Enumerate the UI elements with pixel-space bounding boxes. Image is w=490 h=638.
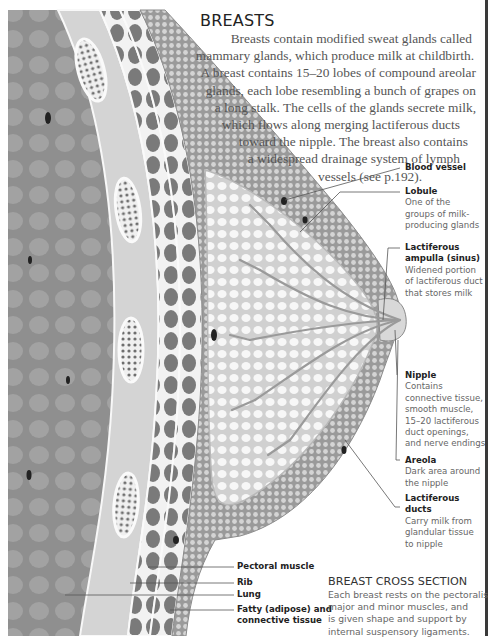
label-nipple: Nipple Contains connective tissue, smoot… <box>405 370 485 450</box>
label-fatty-tissue: Fatty (adipose) and connective tissue <box>237 604 332 627</box>
label-lung: Lung <box>237 589 261 600</box>
page-title: BREASTS <box>190 12 480 30</box>
caption-text: Each breast rests on the pectoralis majo… <box>328 589 488 638</box>
caption-block: BREAST CROSS SECTION Each breast rests o… <box>328 575 488 638</box>
label-blood-vessel: Blood vessel <box>405 162 466 173</box>
label-lobule: Lobule One of the groups of milk- produc… <box>405 186 479 232</box>
label-pectoral-muscle: Pectoral muscle <box>237 561 314 572</box>
intro-block: BREASTS Breasts contain modified sweat g… <box>190 12 480 185</box>
label-lactiferous-ampulla: Lactiferous ampulla (sinus) Widened port… <box>405 242 483 299</box>
intercostal-node <box>119 318 143 382</box>
page-edge-rule <box>485 0 488 636</box>
label-lactiferous-ducts: Lactiferous ducts Carry milk from glandu… <box>405 493 474 550</box>
label-rib: Rib <box>237 577 253 588</box>
label-areola: Areola Dark area around the nipple <box>405 455 480 489</box>
caption-title: BREAST CROSS SECTION <box>328 575 488 589</box>
